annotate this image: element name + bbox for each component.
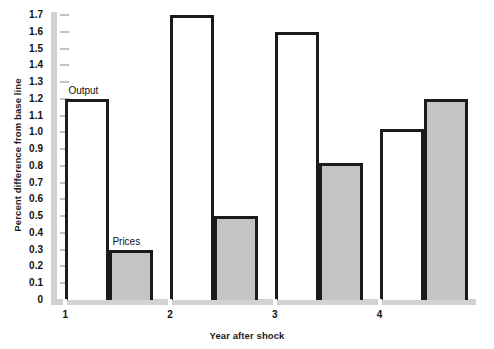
y-tick-label: 1.2 (0, 93, 51, 105)
y-tick-label: 1.1 (0, 110, 51, 122)
x-tick-mark (168, 299, 172, 305)
bar-prices-year-2 (214, 216, 258, 300)
bar-prices-year-3 (319, 163, 363, 300)
x-tick-mark (273, 299, 277, 305)
y-tick-label: 0.4 (0, 227, 51, 239)
series-label-prices: Prices (111, 236, 141, 247)
bar-prices-year-4 (424, 99, 468, 300)
y-tick-label: 0.6 (0, 193, 51, 205)
y-tick-label: 0.8 (0, 160, 51, 172)
bar-output-year-4 (380, 129, 424, 300)
y-tick-label: 0.3 (0, 244, 51, 256)
bar-output-year-3 (275, 32, 319, 300)
x-tick-label: 3 (255, 309, 295, 320)
x-axis-title: Year after shock (0, 330, 494, 341)
y-tick-mark (60, 31, 69, 33)
y-tick-label: 1.7 (0, 9, 51, 21)
y-tick-mark (60, 64, 69, 66)
y-tick-label: 0 (0, 294, 51, 306)
y-tick-mark (60, 14, 69, 16)
bar-chart: Percent difference from base line 1.71.6… (0, 0, 494, 349)
y-tick-label: 0.7 (0, 177, 51, 189)
bar-output-year-2 (170, 15, 214, 300)
y-tick-label: 0.2 (0, 260, 51, 272)
y-tick-label: 0.9 (0, 143, 51, 155)
y-tick-mark (60, 81, 69, 83)
y-tick-label: 1.0 (0, 126, 51, 138)
y-tick-label: 1.5 (0, 43, 51, 55)
series-label-output: Output (67, 85, 99, 96)
y-tick-label: 1.3 (0, 76, 51, 88)
y-tick-label: 1.6 (0, 26, 51, 38)
x-tick-label: 1 (45, 309, 85, 320)
y-tick-label: 0.5 (0, 210, 51, 222)
y-tick-mark (60, 48, 69, 50)
x-tick-mark (378, 299, 382, 305)
bar-prices-year-1 (109, 250, 153, 300)
x-tick-label: 2 (150, 309, 190, 320)
y-tick-label: 1.4 (0, 59, 51, 71)
y-axis-spine (51, 12, 57, 302)
x-tick-label: 4 (360, 309, 400, 320)
y-tick-label: 0.1 (0, 277, 51, 289)
x-tick-mark (63, 299, 67, 305)
bar-output-year-1 (65, 99, 109, 300)
